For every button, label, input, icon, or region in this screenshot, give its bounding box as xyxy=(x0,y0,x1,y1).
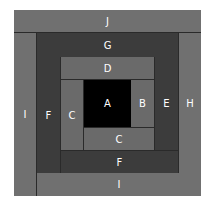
piece-d-label: D xyxy=(104,63,112,74)
piece-a-label: A xyxy=(104,98,111,109)
piece-c-bottom-label: C xyxy=(116,134,123,145)
piece-g-label: G xyxy=(104,40,112,51)
piece-f-bottom-label: F xyxy=(117,157,123,168)
piece-b: B xyxy=(131,80,154,127)
piece-f-left: F xyxy=(37,57,61,173)
piece-d: D xyxy=(61,57,154,80)
piece-e: E xyxy=(154,57,178,150)
piece-i-left: I xyxy=(14,33,37,196)
piece-i-left-label: I xyxy=(24,109,27,120)
piece-j-label: J xyxy=(106,16,109,27)
piece-c-left: C xyxy=(61,80,84,150)
piece-c-bottom: C xyxy=(84,127,154,150)
piece-i-bottom: I xyxy=(37,173,201,196)
piece-a: A xyxy=(84,80,131,127)
piece-c-left-label: C xyxy=(69,110,76,121)
piece-h: H xyxy=(178,33,201,173)
piece-g: G xyxy=(37,33,178,57)
piece-f-bottom: F xyxy=(61,150,178,173)
piece-e-label: E xyxy=(163,98,169,109)
piece-i-bottom-label: I xyxy=(118,179,121,190)
piece-h-label: H xyxy=(186,98,194,109)
piece-j: J xyxy=(14,10,201,33)
piece-b-label: B xyxy=(139,98,146,109)
piece-f-left-label: F xyxy=(46,110,52,121)
